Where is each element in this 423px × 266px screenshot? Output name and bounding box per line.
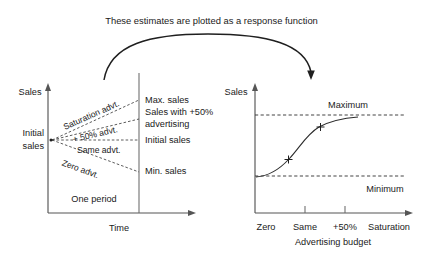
outcome-label-min-sales: Min. sales xyxy=(145,166,187,176)
right-chart-x-axis-label: Advertising budget xyxy=(295,237,372,247)
outcome-label-plus50-line1: Sales with +50% xyxy=(145,107,213,117)
outcome-label-initial-sales: Initial sales xyxy=(145,135,191,145)
scenario-label-same: Same advt. xyxy=(77,145,120,155)
scenario-label-zero: Zero advt. xyxy=(61,158,101,181)
left-chart: Sales Time Initial sales One period Satu… xyxy=(19,73,214,233)
left-chart-y-axis-arrow-icon xyxy=(45,83,51,91)
left-chart-x-axis-label: Time xyxy=(109,223,129,233)
curved-arrow xyxy=(104,34,315,80)
x-tick-label-zero: Zero xyxy=(257,222,276,232)
scenario-label-plus50: + 50% advt. xyxy=(72,124,119,144)
right-chart: Sales Advertising budget Maximum Minimum… xyxy=(225,83,413,247)
initial-sales-label-line1: Initial xyxy=(23,128,44,138)
one-period-label: One period xyxy=(71,194,116,204)
minimum-label: Minimum xyxy=(366,184,404,194)
x-tick-label-saturation: Saturation xyxy=(368,222,410,232)
right-chart-y-axis-label: Sales xyxy=(225,87,248,97)
figure-title: These estimates are plotted as a respons… xyxy=(105,15,318,26)
diagram-canvas: These estimates are plotted as a respons… xyxy=(0,0,423,266)
curved-arrow-path xyxy=(104,34,311,80)
x-tick-label-same: Same xyxy=(293,222,317,232)
figure-root: These estimates are plotted as a respons… xyxy=(0,0,423,266)
outcome-label-plus50-line2: advertising xyxy=(145,119,189,129)
maximum-label: Maximum xyxy=(328,100,368,110)
response-curve xyxy=(256,117,358,177)
initial-sales-point xyxy=(50,139,53,142)
right-chart-y-axis-arrow-icon xyxy=(252,83,258,91)
data-point-marker-plus50 xyxy=(317,123,325,131)
outcome-label-max-sales: Max. sales xyxy=(145,95,189,105)
initial-sales-label-line2: sales xyxy=(23,141,45,151)
right-chart-x-axis-arrow-icon xyxy=(405,210,413,216)
x-tick-label-plus50: +50% xyxy=(333,222,357,232)
curved-arrow-head-icon xyxy=(307,71,315,81)
left-chart-x-axis-arrow-icon xyxy=(188,210,196,216)
left-chart-y-axis-label: Sales xyxy=(19,87,42,97)
